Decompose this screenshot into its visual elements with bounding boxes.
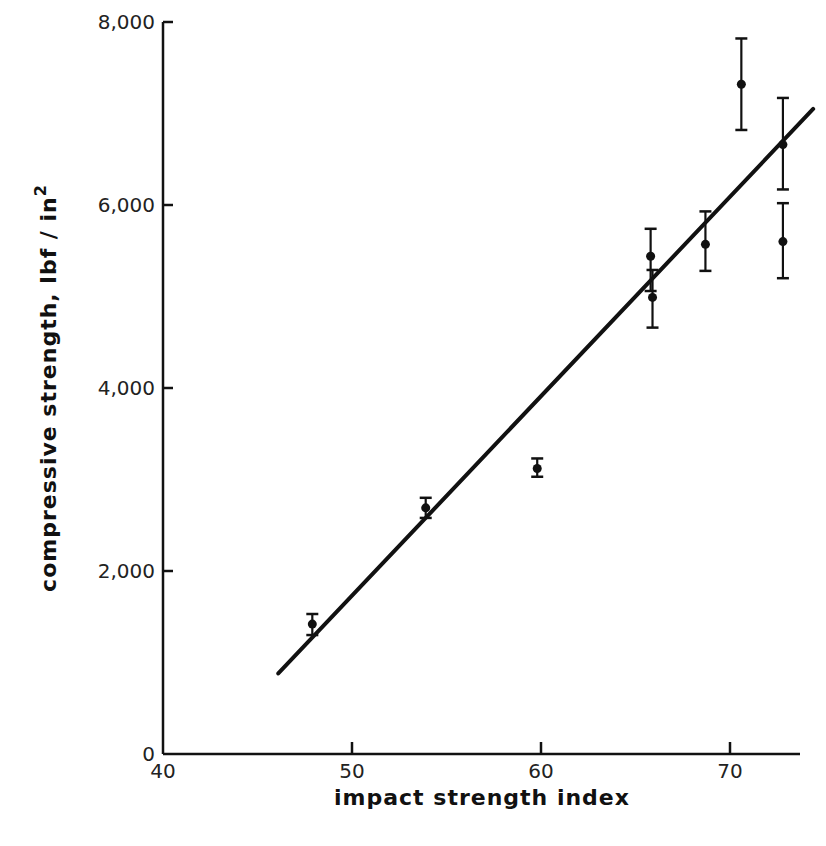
data-point — [777, 98, 789, 190]
point-marker — [308, 620, 317, 629]
data-points — [306, 38, 789, 635]
x-tick-label: 50 — [339, 759, 364, 783]
y-tick-label: 4,000 — [98, 376, 155, 400]
data-point — [645, 229, 657, 291]
scatter-chart: 02,0004,0006,0008,00040506070impact stre… — [0, 0, 826, 846]
y-tick-label: 2,000 — [98, 559, 155, 583]
axis-labels: 02,0004,0006,0008,00040506070impact stre… — [31, 10, 743, 810]
data-point — [777, 203, 789, 278]
regression-line — [278, 109, 813, 674]
point-marker — [646, 252, 655, 261]
y-tick-label: 8,000 — [98, 10, 155, 34]
x-tick-label: 60 — [528, 759, 553, 783]
data-point — [647, 270, 659, 328]
axes — [163, 22, 800, 754]
x-axis-title: impact strength index — [334, 785, 630, 810]
y-axis-title: compressive strength, lbf / in2 — [31, 184, 61, 592]
point-marker — [421, 503, 430, 512]
x-tick-label: 70 — [717, 759, 742, 783]
point-marker — [778, 140, 787, 149]
point-marker — [648, 293, 657, 302]
y-tick-label: 6,000 — [98, 193, 155, 217]
point-marker — [737, 80, 746, 89]
point-marker — [533, 464, 542, 473]
x-tick-label: 40 — [150, 759, 175, 783]
point-marker — [701, 240, 710, 249]
data-point — [531, 458, 543, 476]
fit-line — [278, 109, 813, 674]
data-point — [735, 38, 747, 130]
point-marker — [778, 237, 787, 246]
